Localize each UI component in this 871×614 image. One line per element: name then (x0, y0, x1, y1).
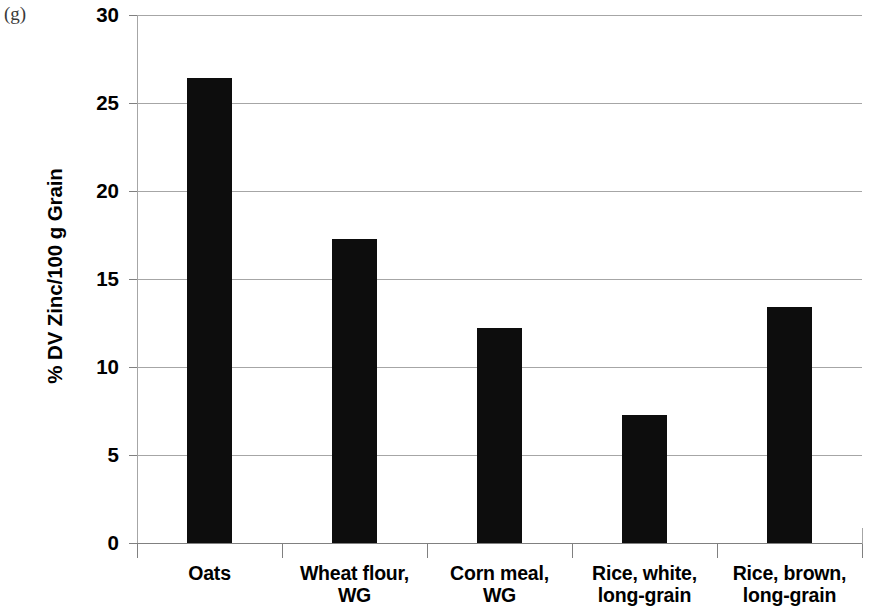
x-axis-category-label: Wheat flour,WG (282, 563, 427, 607)
bar (187, 78, 232, 543)
y-tick-label-0: 0 (59, 533, 119, 554)
x-tick-mark-3 (572, 544, 573, 558)
y-tick-label-30: 30 (59, 5, 119, 26)
bar (622, 415, 667, 543)
y-tick-mark-25 (129, 103, 137, 104)
bar (477, 328, 522, 543)
gridline-15 (137, 279, 862, 280)
gridline-25 (137, 103, 862, 104)
y-tick-mark-0 (129, 543, 137, 544)
x-tick-mark-2 (427, 544, 428, 558)
y-tick-mark-20 (129, 191, 137, 192)
y-tick-mark-5 (129, 455, 137, 456)
y-tick-label-5: 5 (59, 445, 119, 466)
x-axis-category-label: Rice, white,long-grain (572, 563, 717, 607)
x-axis-line (137, 543, 863, 544)
x-axis-label-line: Corn meal, (427, 563, 572, 585)
x-axis-label-line: Wheat flour, (282, 563, 427, 585)
x-tick-mark-5 (862, 544, 863, 558)
x-axis-label-line: WG (427, 585, 572, 607)
x-axis-label-line: Oats (137, 563, 282, 585)
y-tick-mark-15 (129, 279, 137, 280)
x-axis-label-line: Rice, brown, (717, 563, 862, 585)
gridline-20 (137, 191, 862, 192)
y-tick-label-20: 20 (59, 181, 119, 202)
y-tick-mark-30 (129, 15, 137, 16)
x-axis-category-label: Oats (137, 563, 282, 585)
x-tick-mark-0 (137, 544, 138, 558)
x-tick-mark-4 (717, 544, 718, 558)
plot-right-edge (862, 528, 863, 544)
bar (767, 307, 812, 543)
x-axis-label-line: long-grain (717, 585, 862, 607)
x-axis-label-line: long-grain (572, 585, 717, 607)
y-tick-label-25: 25 (59, 93, 119, 114)
x-axis-category-label: Corn meal,WG (427, 563, 572, 607)
x-axis-label-line: WG (282, 585, 427, 607)
x-tick-mark-1 (282, 544, 283, 558)
bar (332, 239, 377, 543)
y-tick-label-15: 15 (59, 269, 119, 290)
x-axis-label-line: Rice, white, (572, 563, 717, 585)
gridline-30 (137, 15, 862, 16)
x-axis-category-label: Rice, brown,long-grain (717, 563, 862, 607)
panel-letter: (g) (4, 4, 26, 23)
plot-area (137, 15, 862, 543)
y-tick-mark-10 (129, 367, 137, 368)
y-tick-label-10: 10 (59, 357, 119, 378)
figure-panel: (g) % DV Zinc/100 g Grain 302520151050 O… (0, 0, 871, 614)
